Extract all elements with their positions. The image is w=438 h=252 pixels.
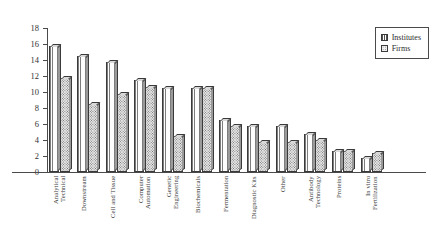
x-axis-category-label: Fermentation — [222, 176, 229, 250]
stipple-swatch-icon — [381, 45, 388, 52]
bar-firms — [117, 94, 127, 172]
bar-institutes — [77, 56, 87, 172]
x-axis-category-label: Proteins — [335, 176, 342, 250]
bar-firms — [145, 87, 155, 172]
x-axis-category-label: Diagnostic Kits — [250, 176, 257, 250]
bar-institutes — [361, 158, 371, 172]
bar-firms — [202, 88, 212, 172]
bar-group — [274, 28, 302, 172]
x-axis-category-label: In vitro Fertilization — [364, 176, 379, 250]
x-axis-category-label: Genetic Engineering — [165, 176, 180, 250]
y-axis-tick-label: 4 — [23, 136, 39, 145]
bar-group — [104, 28, 132, 172]
bar-group — [47, 28, 75, 172]
bar-firms — [230, 126, 240, 172]
legend-item-institutes: Institutes — [381, 32, 421, 43]
bar-group — [330, 28, 358, 172]
x-axis-category-label: Analytical Technical — [52, 176, 67, 250]
y-axis-tick-label: 10 — [23, 88, 39, 97]
bar-series-container — [47, 28, 387, 172]
y-axis-tick-label: 12 — [23, 72, 39, 81]
bar-group — [160, 28, 188, 172]
y-axis-tick-label: 8 — [23, 104, 39, 113]
bar-institutes — [332, 151, 342, 172]
x-axis-category-label: Antibody Technology — [307, 176, 322, 250]
bar-institutes — [276, 126, 286, 172]
bar-institutes — [304, 134, 314, 172]
legend: Institutes Firms — [375, 27, 429, 59]
bar-firms — [343, 151, 353, 172]
y-axis-tick-label: 2 — [23, 152, 39, 161]
bar-firms — [60, 78, 70, 172]
x-axis-category-label: Computer Automation — [137, 176, 152, 250]
bar-firms — [372, 153, 382, 172]
vertical-hatch-swatch-icon — [381, 34, 388, 41]
plot-area — [47, 14, 387, 172]
bar-firms — [173, 136, 183, 172]
bar-firms — [258, 142, 268, 172]
y-axis-tick-label: 14 — [23, 56, 39, 65]
bar-institutes — [106, 62, 116, 172]
x-axis-category-label: Other — [279, 176, 286, 250]
bar-group — [75, 28, 103, 172]
bar-firms — [315, 140, 325, 172]
bar-group — [217, 28, 245, 172]
bar-group — [132, 28, 160, 172]
bar-firms — [88, 104, 98, 172]
bar-institutes — [247, 126, 257, 172]
legend-label-firms: Firms — [392, 45, 411, 53]
bar-institutes — [134, 80, 144, 172]
bar-group — [302, 28, 330, 172]
y-axis-tick-label: 16 — [23, 40, 39, 49]
y-axis-tick-label: 18 — [23, 24, 39, 33]
bar-firms — [287, 142, 297, 172]
legend-label-institutes: Institutes — [392, 34, 421, 42]
bar-group — [245, 28, 273, 172]
x-axis-category-label: Downstream — [80, 176, 87, 250]
bar-chart: 024681012141618 Analytical TechnicalDown… — [0, 0, 438, 252]
bar-institutes — [49, 46, 59, 172]
bar-institutes — [162, 88, 172, 172]
y-axis-tick-label: 6 — [23, 120, 39, 129]
x-axis-baseline — [12, 172, 426, 173]
bar-institutes — [219, 120, 229, 172]
legend-item-firms: Firms — [381, 43, 421, 54]
bar-group — [189, 28, 217, 172]
x-axis-category-label: Cell and Tissue — [109, 176, 116, 250]
x-axis-category-labels: Analytical TechnicalDownstreamCell and T… — [47, 176, 387, 252]
bar-institutes — [191, 88, 201, 172]
x-axis-category-label: Biochemicals — [194, 176, 201, 250]
